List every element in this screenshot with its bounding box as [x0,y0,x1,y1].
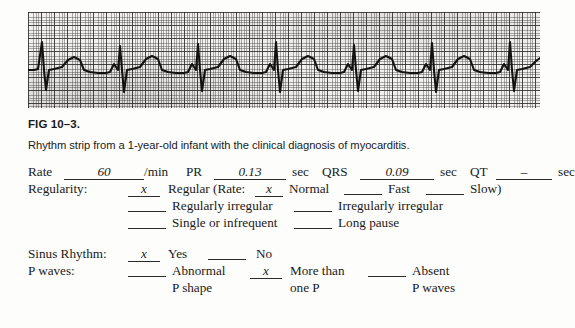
single-or-infrequent-checkbox[interactable] [128,214,166,229]
qt-value-field[interactable]: – [496,165,552,180]
regularity-slow-checkbox[interactable] [426,180,464,195]
qrs-label: QRS [322,163,348,180]
pr-value-field[interactable]: 0.13 [214,165,286,180]
long-pause-label: Long pause [338,214,399,231]
single-or-infrequent-label: Single or infrequent [172,214,277,231]
regularity-fast-checkbox[interactable] [344,180,382,195]
qrs-unit: sec [440,163,457,180]
figure-label: FIG 10–3. [28,118,80,130]
worksheet-row-regularity: Regularity: x Regular (Rate: x Normal Fa… [28,180,548,197]
ecg-waveform-trace [28,12,540,108]
p-waves-abnormal-label-2: P shape [172,279,212,296]
sinus-rhythm-no-checkbox[interactable] [208,245,246,260]
ecg-interpretation-worksheet: Rate 60/min PR 0.13 sec QRS 0.09 sec QT … [28,163,548,296]
sinus-rhythm-label: Sinus Rhythm: [28,245,107,262]
p-waves-abnormal-label: Abnormal [172,262,225,279]
irregularly-irregular-checkbox[interactable] [294,197,332,212]
long-pause-checkbox[interactable] [294,214,332,229]
section-spacer [28,231,548,245]
sinus-rhythm-yes-label: Yes [168,245,187,262]
p-waves-label: P waves: [28,262,75,279]
p-waves-more-than-one-checkbox[interactable]: x [250,264,282,279]
qrs-value-field[interactable]: 0.09 [360,165,434,180]
p-waves-absent-label-2: P waves [412,279,455,296]
regularity-normal-label: Normal [289,180,329,197]
worksheet-row-p-waves: P waves: Abnormal x More than Absent [28,262,548,279]
worksheet-row-irregular: Regularly irregular Irregularly irregula… [28,197,548,214]
regularity-regular-label: Regular (Rate: [168,180,245,197]
rate-value-field[interactable]: 60 [64,165,144,180]
qt-unit: sec [558,163,575,180]
p-waves-more-than-one-label: More than [290,262,345,279]
p-waves-more-than-one-label-2: one P [290,279,320,296]
figure-caption: Rhythm strip from a 1-year-old infant wi… [28,139,409,151]
p-waves-absent-label: Absent [412,262,449,279]
regularity-slow-label: Slow) [470,180,502,197]
regularly-irregular-checkbox[interactable] [128,197,166,212]
regularity-regular-checkbox[interactable]: x [128,182,160,197]
worksheet-row-sinus-rhythm: Sinus Rhythm: x Yes No [28,245,548,262]
worksheet-row-pause: Single or infrequent Long pause [28,214,548,231]
regularity-fast-label: Fast [388,180,410,197]
irregularly-irregular-label: Irregularly irregular [338,197,443,214]
p-waves-abnormal-checkbox[interactable] [128,262,166,277]
regularity-normal-checkbox[interactable]: x [255,182,283,197]
regularity-label: Regularity: [28,180,87,197]
p-waves-absent-checkbox[interactable] [368,262,406,277]
sinus-rhythm-yes-checkbox[interactable]: x [128,247,160,262]
regularly-irregular-label: Regularly irregular [172,197,273,214]
rate-label: Rate [28,163,52,180]
qt-label: QT [470,163,488,180]
sinus-rhythm-no-label: No [256,245,272,262]
worksheet-row-measurements: Rate 60/min PR 0.13 sec QRS 0.09 sec QT … [28,163,548,180]
pr-unit: sec [292,163,309,180]
pr-label: PR [186,163,202,180]
rate-unit: /min [144,164,168,179]
ecg-rhythm-strip [28,12,540,108]
worksheet-row-p-waves-continued: P shape one P P waves [28,279,548,296]
